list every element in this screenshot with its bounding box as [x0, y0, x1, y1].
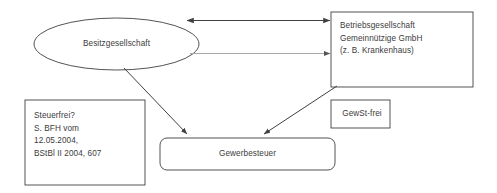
node-gewerbesteuer[interactable] [160, 138, 335, 170]
node-gewst-frei[interactable] [331, 100, 390, 128]
node-steuerfrei-note[interactable] [25, 100, 145, 185]
node-besitzgesellschaft[interactable] [34, 18, 199, 70]
connector-betrieb-gewerbesteuer [264, 86, 337, 134]
diagram-canvas: Besitzgesellschaft Betriebsgesellschaft … [0, 0, 497, 193]
node-betriebsgesellschaft[interactable] [331, 12, 473, 87]
diagram-shapes-layer [0, 0, 497, 193]
